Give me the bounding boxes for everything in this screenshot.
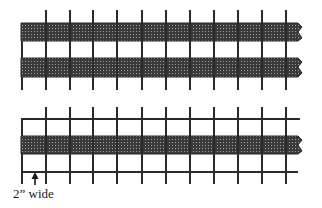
fence-diagram: [0, 0, 322, 208]
strip-band-2: [21, 58, 302, 77]
up-arrow-icon: [32, 172, 39, 185]
strip-band-1: [21, 23, 302, 41]
top-figure: [21, 10, 302, 90]
width-annotation: 2” wide: [13, 186, 54, 202]
vertical-posts: [46, 10, 286, 90]
strip-band: [21, 136, 302, 154]
bottom-figure: [21, 107, 302, 185]
